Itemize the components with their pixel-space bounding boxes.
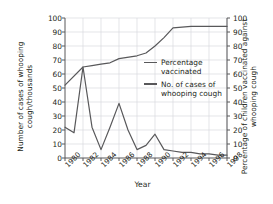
legend-item-cases: No. of cases of whooping cough bbox=[144, 80, 222, 99]
legend: Percentage vaccinated No. of cases of wh… bbox=[144, 58, 222, 102]
y-tick-right-60: 60 bbox=[233, 70, 255, 79]
y-tick-right-50: 50 bbox=[233, 84, 255, 93]
legend-swatch-percentage bbox=[144, 62, 157, 63]
y-tick-right-20: 20 bbox=[233, 126, 255, 135]
legend-item-percentage: Percentage vaccinated bbox=[144, 58, 222, 77]
y-tick-right-30: 30 bbox=[233, 112, 255, 121]
y-tick-left-50: 50 bbox=[40, 84, 62, 93]
y-tick-left-60: 60 bbox=[40, 70, 62, 79]
whooping-cough-chart: Number of cases of whooping cough/thousa… bbox=[0, 0, 273, 204]
y-tick-right-70: 70 bbox=[233, 56, 255, 65]
y-tick-left-10: 10 bbox=[40, 140, 62, 149]
y-tick-left-30: 30 bbox=[40, 112, 62, 121]
y-tick-left-40: 40 bbox=[40, 98, 62, 107]
y-tick-left-80: 80 bbox=[40, 42, 62, 51]
legend-label-percentage: Percentage vaccinated bbox=[161, 58, 203, 77]
y-tick-right-90: 90 bbox=[233, 28, 255, 37]
y-tick-right-100: 100 bbox=[233, 14, 255, 23]
legend-label-cases: No. of cases of whooping cough bbox=[161, 80, 222, 99]
legend-swatch-cases bbox=[144, 83, 157, 84]
y-tick-left-90: 90 bbox=[40, 28, 62, 37]
y-tick-right-80: 80 bbox=[233, 42, 255, 51]
y-tick-right-40: 40 bbox=[233, 98, 255, 107]
y-tick-left-100: 100 bbox=[40, 14, 62, 23]
y-tick-right-10: 10 bbox=[233, 140, 255, 149]
y-tick-left-70: 70 bbox=[40, 56, 62, 65]
y-tick-left-20: 20 bbox=[40, 126, 62, 135]
y-tick-left-0: 0 bbox=[40, 154, 62, 163]
